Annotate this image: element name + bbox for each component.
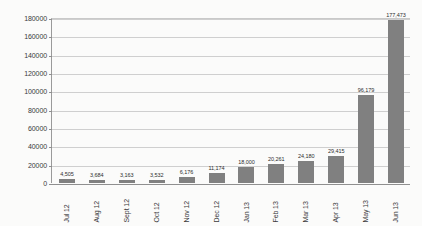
bar[interactable] xyxy=(328,156,344,183)
bar-value-label: 3,532 xyxy=(150,172,164,178)
bar-slot: 3,163 xyxy=(112,19,142,183)
y-axis-label: 0 xyxy=(1,180,47,187)
bar[interactable] xyxy=(238,167,254,184)
x-axis-label-text: Apr 13 xyxy=(332,189,339,223)
x-axis-label-text: Nov 12 xyxy=(182,189,189,223)
x-axis-label: Feb 13 xyxy=(260,188,290,209)
bar-slot: 96,179 xyxy=(351,19,381,183)
bar[interactable] xyxy=(59,179,75,183)
x-axis-label-text: Sept 12 xyxy=(122,189,129,223)
x-axis-label: Apr 13 xyxy=(320,188,350,209)
bar[interactable] xyxy=(179,177,195,183)
x-axis-label: Nov 12 xyxy=(171,188,201,209)
gridline xyxy=(52,184,410,185)
x-axis-label: May 13 xyxy=(350,188,380,209)
x-axis-label-text: Jun 13 xyxy=(392,189,399,223)
bar-value-label: 24,180 xyxy=(298,153,315,159)
bar-slot: 3,684 xyxy=(82,19,112,183)
bar-value-label: 4,505 xyxy=(60,171,74,177)
x-axis-label-text: Jan 13 xyxy=(242,189,249,223)
bar-slot: 3,532 xyxy=(142,19,172,183)
bar-value-label: 3,684 xyxy=(90,172,104,178)
x-axis-label: Oct 12 xyxy=(141,188,171,209)
x-axis-label: Jan 13 xyxy=(231,188,261,209)
bar-value-label: 11,174 xyxy=(208,165,224,171)
bar[interactable] xyxy=(298,161,314,183)
bar[interactable] xyxy=(89,180,105,183)
x-axis-label: Aug 12 xyxy=(81,188,111,209)
x-axis-label: Sept 12 xyxy=(111,188,141,209)
bar[interactable] xyxy=(358,95,374,183)
x-axis-label-text: May 13 xyxy=(362,189,369,223)
bar-value-label: 18,000 xyxy=(238,159,255,165)
bar-value-label: 6,176 xyxy=(180,169,194,175)
bar-slot: 6,176 xyxy=(172,19,202,183)
y-axis-label: 20000 xyxy=(1,161,47,168)
bar-value-label: 29,415 xyxy=(328,148,345,154)
bar-chart: 0200004000060000800001000001200001400001… xyxy=(0,0,422,226)
x-axis-label: Jun 13 xyxy=(380,188,410,209)
y-axis-label: 40000 xyxy=(1,143,47,150)
bar-slot: 29,415 xyxy=(321,19,351,183)
y-axis-label: 60000 xyxy=(1,125,47,132)
x-axis-label-text: Mar 13 xyxy=(302,189,309,223)
bar-slot: 20,261 xyxy=(261,19,291,183)
bar[interactable] xyxy=(149,180,165,183)
bar-slot: 177,473 xyxy=(381,19,411,183)
plot-area: 4,5053,6843,1633,5326,17611,17418,00020,… xyxy=(51,18,410,183)
bar-slot: 4,505 xyxy=(52,19,82,183)
x-axis-label: Mar 13 xyxy=(290,188,320,209)
bar[interactable] xyxy=(209,173,225,183)
y-axis-label: 160000 xyxy=(1,33,47,40)
bar[interactable] xyxy=(119,180,135,183)
bar-slot: 24,180 xyxy=(291,19,321,183)
bar-value-label: 96,179 xyxy=(358,87,375,93)
bar-value-label: 177,473 xyxy=(386,12,406,18)
bar-slot: 11,174 xyxy=(202,19,232,183)
bar[interactable] xyxy=(268,164,284,183)
x-axis-label-text: Jul 12 xyxy=(63,189,70,223)
bar-value-label: 20,261 xyxy=(268,156,285,162)
bar[interactable] xyxy=(388,20,404,183)
x-axis-label-text: Oct 12 xyxy=(152,189,159,223)
y-axis-label: 120000 xyxy=(1,70,47,77)
y-axis-label: 180000 xyxy=(1,15,47,22)
x-axis-label: Dec 12 xyxy=(201,188,231,209)
x-axis-label-text: Dec 12 xyxy=(212,189,219,223)
bar-value-label: 3,163 xyxy=(120,172,134,178)
y-axis-label: 140000 xyxy=(1,51,47,58)
y-axis-label: 100000 xyxy=(1,88,47,95)
x-axis-label-text: Feb 13 xyxy=(272,189,279,223)
x-axis-label-text: Aug 12 xyxy=(92,189,99,223)
x-axis-label: Jul 12 xyxy=(51,188,81,209)
y-axis-label: 80000 xyxy=(1,106,47,113)
y-axis-tick xyxy=(49,184,52,185)
bar-slot: 18,000 xyxy=(232,19,262,183)
